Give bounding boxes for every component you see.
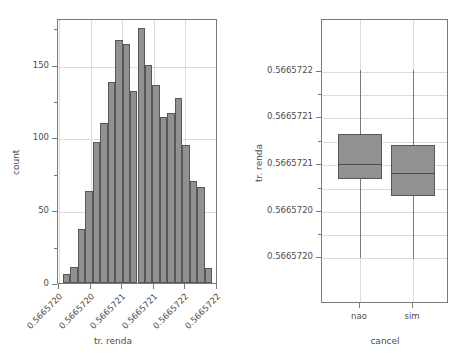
x-tick-mark <box>58 284 59 289</box>
y-tick-mark <box>316 164 321 165</box>
x-tick-label: sim <box>362 312 462 321</box>
x-tick-mark <box>359 303 360 308</box>
y-tick-label: 100 <box>33 133 49 142</box>
y-minor-tick <box>54 29 57 30</box>
x-tick-mark <box>412 303 413 308</box>
histogram-bar <box>70 267 77 283</box>
y-tick-mark <box>316 257 321 258</box>
histogram-panel: 050100150 0.56657200.56657200.56657210.5… <box>0 0 235 357</box>
histogram-x-axis-title: tr. renda <box>94 337 132 346</box>
gridline-horizontal <box>322 258 447 259</box>
x-tick-mark <box>90 284 91 289</box>
boxplot-x-axis-title: cancel <box>370 337 399 346</box>
boxplot-median-line <box>338 164 382 165</box>
y-tick-mark <box>316 71 321 72</box>
histogram-bar <box>93 142 100 283</box>
histogram-bar <box>145 65 152 283</box>
y-tick-label: 0.5665721 <box>267 159 313 168</box>
histogram-bar <box>152 85 159 283</box>
x-tick-mark <box>121 284 122 289</box>
y-tick-label: 0.5665721 <box>267 112 313 121</box>
y-minor-tick <box>318 141 321 142</box>
gridline-horizontal <box>322 118 447 119</box>
histogram-bar <box>100 123 107 283</box>
boxplot-y-axis-title: tr. renda <box>255 144 264 182</box>
y-minor-tick <box>318 188 321 189</box>
y-tick-mark <box>52 284 57 285</box>
y-tick-label: 50 <box>38 206 49 215</box>
gridline-horizontal <box>322 72 447 73</box>
histogram-bar <box>85 191 92 283</box>
histogram-bar <box>190 181 197 283</box>
histogram-bar <box>205 268 212 283</box>
boxplot-plot-area <box>321 19 448 303</box>
y-tick-label: 0.5665722 <box>267 66 313 75</box>
y-minor-tick <box>54 175 57 176</box>
y-minor-tick <box>318 94 321 95</box>
y-tick-mark <box>52 66 57 67</box>
y-tick-label: 0.5665720 <box>267 206 313 215</box>
x-tick-mark <box>153 284 154 289</box>
y-tick-mark <box>316 117 321 118</box>
boxplot-panel: 0.56657220.56657210.56657210.56657200.56… <box>235 0 469 357</box>
histogram-bar <box>130 91 137 283</box>
histogram-bar <box>63 274 70 283</box>
y-minor-tick <box>54 102 57 103</box>
histogram-bar <box>160 117 167 283</box>
y-tick-label: 0.5665720 <box>267 252 313 261</box>
y-minor-tick <box>54 248 57 249</box>
histogram-bar <box>175 98 182 283</box>
boxplot-median-line <box>391 173 435 174</box>
figure-root: 050100150 0.56657200.56657200.56657210.5… <box>0 0 469 357</box>
histogram-bar <box>108 82 115 283</box>
gridline-horizontal-minor <box>322 95 447 96</box>
histogram-bar <box>167 113 174 283</box>
y-tick-mark <box>52 211 57 212</box>
y-minor-tick <box>318 234 321 235</box>
y-tick-mark <box>316 211 321 212</box>
y-tick-mark <box>52 138 57 139</box>
histogram-bar <box>197 187 204 283</box>
boxplot-box <box>338 134 382 179</box>
histogram-plot-area <box>57 19 217 284</box>
histogram-y-axis-title: count <box>12 150 21 175</box>
histogram-bar <box>182 145 189 283</box>
y-tick-label: 150 <box>33 61 49 70</box>
y-tick-label: 0 <box>44 279 49 288</box>
histogram-bar <box>138 28 145 283</box>
histogram-bar <box>78 229 85 283</box>
gridline-vertical <box>59 20 60 283</box>
x-tick-mark <box>216 284 217 289</box>
gridline-horizontal <box>322 212 447 213</box>
boxplot-box <box>391 145 435 196</box>
gridline-horizontal-minor <box>322 235 447 236</box>
histogram-bar <box>123 44 130 283</box>
x-tick-label: 0.5665720 <box>0 292 64 357</box>
histogram-bar <box>115 40 122 283</box>
x-tick-mark <box>184 284 185 289</box>
